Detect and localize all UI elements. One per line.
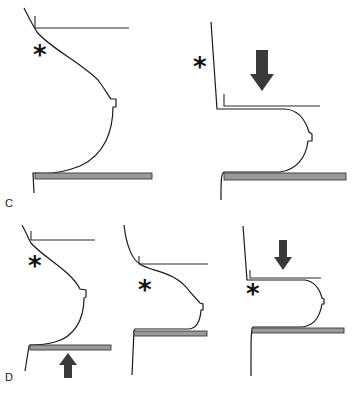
- panel-d2: *: [124, 225, 208, 375]
- detector-plate: [35, 173, 152, 179]
- asterisk-marker: *: [28, 251, 42, 281]
- compression-paddle: [139, 256, 208, 264]
- asterisk-marker: *: [33, 40, 47, 70]
- chest-wall-line: [211, 22, 285, 109]
- panel-c1: *: [24, 8, 152, 193]
- breast-outline: [24, 8, 116, 193]
- panel-d1: *: [22, 225, 111, 378]
- compression-paddle: [224, 94, 320, 106]
- asterisk-marker: *: [246, 279, 260, 309]
- detector-plate: [30, 345, 111, 350]
- detector-plate: [134, 331, 207, 336]
- compression-diagram: * * * * *: [0, 0, 357, 393]
- compression-paddle: [250, 270, 321, 278]
- compression-paddle: [35, 16, 129, 28]
- breast-outline: [221, 109, 312, 200]
- asterisk-marker: *: [138, 275, 152, 305]
- panel-c2: *: [193, 22, 346, 200]
- arrow-up-icon: [59, 353, 77, 378]
- breast-outline: [124, 225, 203, 375]
- detector-plate: [252, 328, 344, 333]
- chest-wall-line: [243, 226, 305, 280]
- arrow-down-icon: [274, 240, 292, 270]
- arrow-down-icon: [250, 50, 274, 91]
- detector-plate: [224, 173, 346, 180]
- asterisk-marker: *: [193, 52, 207, 82]
- compression-paddle: [31, 231, 95, 240]
- panel-d3: *: [243, 226, 344, 376]
